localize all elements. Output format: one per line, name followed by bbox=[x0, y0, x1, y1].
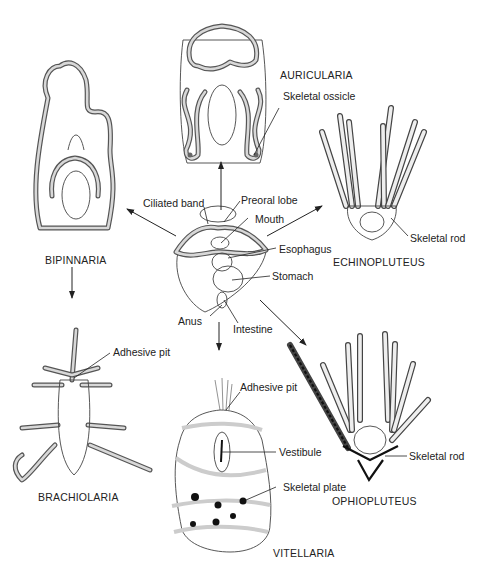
bipinnaria-drawing bbox=[36, 63, 113, 228]
label-skeletal-plate: Skeletal plate bbox=[283, 481, 346, 493]
echinopluteus-drawing bbox=[322, 108, 424, 240]
ophiopluteus-drawing bbox=[290, 334, 428, 480]
label-ophiopluteus-skeletal-rod: Skeletal rod bbox=[409, 450, 464, 462]
auricularia-drawing bbox=[180, 26, 279, 163]
label-vestibule: Vestibule bbox=[279, 446, 322, 458]
label-mouth: Mouth bbox=[255, 213, 284, 225]
label-preoral-lobe: Preoral lobe bbox=[241, 194, 298, 206]
label-stomach: Stomach bbox=[272, 270, 313, 282]
label-anus: Anus bbox=[178, 315, 202, 327]
label-vitellaria-adhesive-pit: Adhesive pit bbox=[240, 381, 297, 393]
name-echinopluteus: ECHINOPLUTEUS bbox=[333, 256, 425, 268]
vitellaria-drawing bbox=[172, 378, 276, 552]
central-larva-drawing bbox=[176, 206, 266, 312]
name-vitellaria: VITELLARIA bbox=[273, 547, 335, 559]
label-ciliated-band: Ciliated band bbox=[143, 197, 204, 209]
name-bipinnaria: BIPINNARIA bbox=[45, 254, 107, 266]
name-auricularia: AURICULARIA bbox=[280, 69, 353, 81]
larval-forms-diagram bbox=[0, 0, 477, 573]
label-brachiolaria-adhesive-pit: Adhesive pit bbox=[113, 346, 170, 358]
name-brachiolaria: BRACHIOLARIA bbox=[38, 491, 119, 503]
name-ophiopluteus: OPHIOPLUTEUS bbox=[332, 495, 417, 507]
label-echinopluteus-skeletal-rod: Skeletal rod bbox=[410, 232, 465, 244]
label-intestine: Intestine bbox=[233, 323, 273, 335]
label-skeletal-ossicle: Skeletal ossicle bbox=[283, 90, 355, 102]
label-esophagus: Esophagus bbox=[279, 243, 332, 255]
